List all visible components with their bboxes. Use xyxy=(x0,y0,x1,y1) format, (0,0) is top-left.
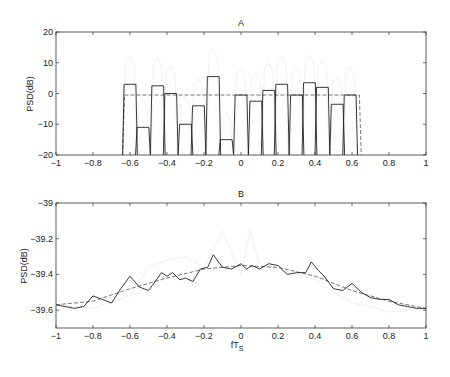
chart-b-dotted-series xyxy=(56,230,426,312)
figure: A −1−0.8−0.6−0.4−0.200.20.40.60.8120100−… xyxy=(0,0,450,377)
x-tick-label: 0.2 xyxy=(272,158,285,168)
x-tick-label: 0.4 xyxy=(309,158,322,168)
x-tick-label: 0 xyxy=(238,331,243,341)
x-tick-label: 0.8 xyxy=(383,331,396,341)
x-tick-label: 0.8 xyxy=(383,158,396,168)
x-tick-label: 1 xyxy=(423,331,428,341)
x-tick-label: 1 xyxy=(423,158,428,168)
x-tick-label: −0.6 xyxy=(121,158,139,168)
chart-a-dashed-series xyxy=(123,95,362,155)
x-tick-label: −0.2 xyxy=(195,331,213,341)
y-tick-label: −20 xyxy=(38,150,53,160)
chart-a-title: A xyxy=(238,18,244,28)
x-tick-label: −0.2 xyxy=(195,158,213,168)
y-tick-label: 10 xyxy=(43,58,53,68)
x-tick-label: −0.6 xyxy=(121,331,139,341)
chart-b-xlabel: fTS xyxy=(231,340,244,352)
chart-a-frame xyxy=(56,32,426,155)
y-tick-label: −39.4 xyxy=(30,269,53,279)
chart-b: B −1−0.8−0.6−0.4−0.200.20.40.60.81−39−39… xyxy=(19,189,429,352)
x-tick-label: −0.8 xyxy=(84,158,102,168)
chart-b-axes: −1−0.8−0.6−0.4−0.200.20.40.60.81−39−39.2… xyxy=(30,198,428,341)
chart-a: A −1−0.8−0.6−0.4−0.200.20.40.60.8120100−… xyxy=(25,18,429,168)
y-tick-label: 20 xyxy=(43,27,53,37)
chart-b-solid-series xyxy=(56,255,426,309)
x-tick-label: 0.4 xyxy=(309,331,322,341)
y-tick-label: −39.2 xyxy=(30,234,53,244)
chart-a-ylabel: PSD(dB) xyxy=(25,76,35,112)
y-tick-label: 0 xyxy=(48,89,53,99)
chart-a-dotted-series xyxy=(124,49,357,155)
x-tick-label: −1 xyxy=(51,331,61,341)
y-tick-label: −10 xyxy=(38,119,53,129)
x-tick-label: 0.6 xyxy=(346,331,359,341)
chart-b-dashed-series xyxy=(56,266,426,309)
x-tick-label: 0.6 xyxy=(346,158,359,168)
x-tick-label: −0.8 xyxy=(84,331,102,341)
x-tick-label: −0.4 xyxy=(158,158,176,168)
y-tick-label: −39 xyxy=(38,198,53,208)
x-tick-label: −0.4 xyxy=(158,331,176,341)
chart-b-ylabel: PSD(dB) xyxy=(19,248,29,284)
y-tick-label: −39.6 xyxy=(30,305,53,315)
x-tick-label: 0 xyxy=(238,158,243,168)
chart-a-solid-series xyxy=(123,77,358,155)
x-tick-label: 0.2 xyxy=(272,331,285,341)
chart-b-title: B xyxy=(238,189,244,199)
